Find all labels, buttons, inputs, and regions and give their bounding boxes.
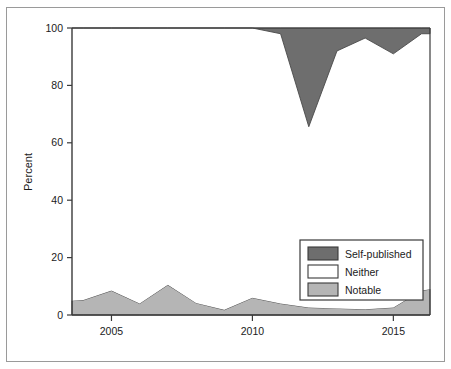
legend-swatch-notable <box>308 283 338 296</box>
legend-swatch-self-published <box>308 247 338 260</box>
legend-label-notable: Notable <box>345 284 381 296</box>
legend-label-self-published: Self-published <box>345 248 412 260</box>
x-tick-label: 2005 <box>100 325 124 337</box>
chart-figure: 020406080100 200520102015 Percent Self-p… <box>0 0 451 369</box>
x-tick-label: 2015 <box>382 325 406 337</box>
y-axis-title: Percent <box>22 153 34 191</box>
y-tick-label: 80 <box>51 79 63 91</box>
y-axis-ticks: 020406080100 <box>45 22 72 321</box>
y-tick-label: 0 <box>57 309 63 321</box>
y-tick-label: 60 <box>51 136 63 148</box>
x-axis-ticks: 200520102015 <box>100 315 405 337</box>
area-chart: 020406080100 200520102015 Percent Self-p… <box>0 0 451 369</box>
x-tick-label: 2010 <box>241 325 265 337</box>
legend-label-neither: Neither <box>345 266 379 278</box>
y-tick-label: 40 <box>51 194 63 206</box>
chart-legend: Self-publishedNeitherNotable <box>300 240 423 300</box>
y-tick-label: 20 <box>51 251 63 263</box>
legend-swatch-neither <box>308 265 338 278</box>
y-tick-label: 100 <box>45 22 63 34</box>
